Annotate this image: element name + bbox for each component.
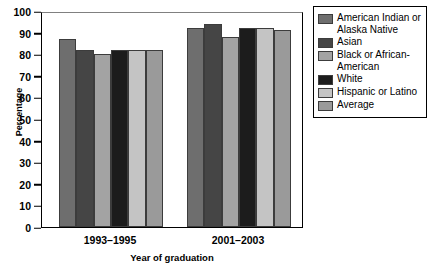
legend-swatch bbox=[318, 75, 333, 85]
chart-legend: American Indian or Alaska NativeAsianBla… bbox=[313, 6, 427, 118]
legend-label: American Indian or Alaska Native bbox=[337, 12, 422, 35]
bar bbox=[204, 24, 221, 227]
y-axis-tick: 50 bbox=[0, 115, 41, 126]
y-axis-tick: 90 bbox=[0, 28, 41, 39]
x-axis-group-label: 2001–2003 bbox=[212, 234, 265, 246]
legend-item: Average bbox=[318, 99, 422, 111]
y-axis-tick-mark bbox=[34, 98, 41, 99]
y-axis-tick-mark bbox=[34, 184, 41, 185]
legend-swatch bbox=[318, 88, 333, 98]
x-axis-group-label: 1993–1995 bbox=[84, 234, 137, 246]
bar bbox=[146, 50, 163, 227]
bar bbox=[187, 28, 204, 227]
y-axis-tick: 70 bbox=[0, 72, 41, 83]
y-axis-tick-label: 100 bbox=[13, 7, 34, 18]
y-axis-tick-label: 30 bbox=[19, 158, 34, 169]
legend-label: Average bbox=[337, 99, 374, 111]
y-axis-tick: 30 bbox=[0, 158, 41, 169]
y-axis-tick: 10 bbox=[0, 201, 41, 212]
bar bbox=[94, 54, 111, 227]
y-axis-tick-mark bbox=[34, 11, 41, 12]
y-axis-tick: 0 bbox=[0, 223, 41, 234]
y-axis-tick-label: 50 bbox=[19, 115, 34, 126]
legend-swatch bbox=[318, 51, 333, 61]
legend-label: Black or African-American bbox=[337, 49, 422, 72]
x-axis-title: Year of graduation bbox=[41, 252, 303, 263]
y-axis-tick-mark bbox=[34, 76, 41, 77]
y-axis-tick-label: 80 bbox=[19, 50, 34, 61]
y-axis-tick-mark bbox=[34, 141, 41, 142]
bar bbox=[222, 37, 239, 227]
y-axis-tick-mark bbox=[34, 206, 41, 207]
y-axis-tick-label: 70 bbox=[19, 72, 34, 83]
legend-item: Asian bbox=[318, 36, 422, 48]
y-axis-tick-mark bbox=[34, 54, 41, 55]
y-axis-tick-mark bbox=[34, 227, 41, 228]
legend-item: White bbox=[318, 73, 422, 85]
bar bbox=[76, 50, 93, 227]
bar bbox=[128, 50, 145, 227]
y-axis-tick: 100 bbox=[0, 7, 41, 18]
plot-area bbox=[41, 12, 303, 228]
bar bbox=[111, 50, 128, 227]
y-axis-tick-label: 20 bbox=[19, 180, 34, 191]
bar bbox=[239, 28, 256, 227]
legend-swatch bbox=[318, 38, 333, 48]
bar-chart-figure: Percentage 1009080706050403020100 1993–1… bbox=[0, 0, 431, 271]
y-axis-tick-label: 10 bbox=[19, 201, 34, 212]
bar bbox=[256, 28, 273, 227]
y-axis-tick-mark bbox=[34, 119, 41, 120]
y-axis-tick-label: 40 bbox=[19, 136, 34, 147]
legend-item: American Indian or Alaska Native bbox=[318, 12, 422, 35]
y-axis-tick-mark bbox=[34, 162, 41, 163]
bars-layer bbox=[42, 13, 302, 227]
y-axis-tick-mark bbox=[34, 33, 41, 34]
y-axis-tick: 40 bbox=[0, 136, 41, 147]
legend-label: Asian bbox=[337, 36, 362, 48]
legend-item: Black or African-American bbox=[318, 49, 422, 72]
y-axis-tick: 60 bbox=[0, 93, 41, 104]
y-axis-tick-label: 60 bbox=[19, 93, 34, 104]
y-axis-tick-label: 90 bbox=[19, 28, 34, 39]
legend-item: Hispanic or Latino bbox=[318, 86, 422, 98]
legend-label: Hispanic or Latino bbox=[337, 86, 417, 98]
bar bbox=[274, 30, 291, 227]
legend-swatch bbox=[318, 101, 333, 111]
y-axis-tick-label: 0 bbox=[25, 223, 34, 234]
legend-label: White bbox=[337, 73, 363, 85]
bar bbox=[59, 39, 76, 227]
y-axis-tick: 80 bbox=[0, 50, 41, 61]
legend-swatch bbox=[318, 14, 333, 24]
y-axis-tick: 20 bbox=[0, 180, 41, 191]
